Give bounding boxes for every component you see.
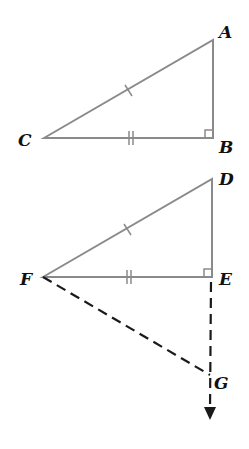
label-b: B [218,137,233,157]
label-d: D [218,169,234,189]
label-g: G [214,373,229,393]
triangle-abc-outline [44,40,213,138]
triangle-def-outline [43,179,212,277]
label-f: F [19,269,34,289]
label-a: A [217,22,232,42]
construction-lines [43,277,216,420]
triangle-abc [44,40,213,145]
dashed-segment-fg [43,277,210,375]
arrow-down-icon [204,407,216,420]
triangle-def [43,179,212,284]
geometry-diagram: A B C D E F G [0,0,249,449]
dashed-ray-eg [210,282,211,410]
label-e: E [218,269,233,289]
label-c: C [18,130,32,150]
right-angle-mark-b [205,130,213,138]
right-angle-mark-e [204,269,212,277]
